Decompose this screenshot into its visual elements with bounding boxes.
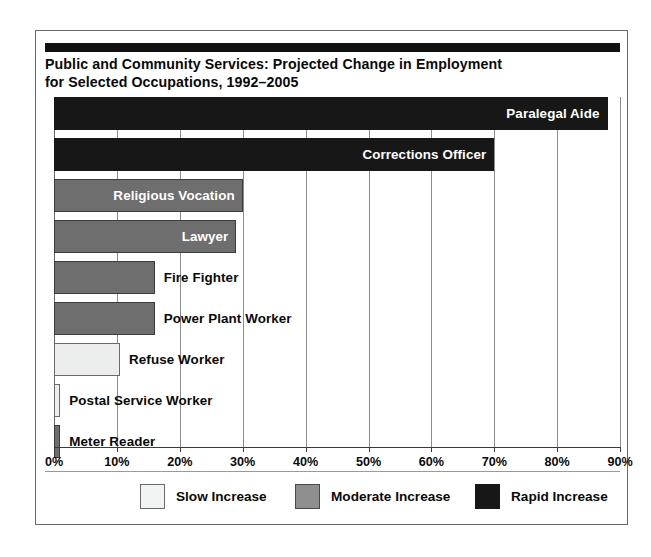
x-tick-label-20%: 20% <box>167 455 192 469</box>
bar-row: Refuse Worker <box>54 343 620 376</box>
chart-title: Public and Community Services: Projected… <box>45 55 620 91</box>
bar-label-paralegal-aide: Paralegal Aide <box>506 97 599 130</box>
legend-swatch-rapid <box>475 484 500 509</box>
bar-row: Postal Service Worker <box>54 384 620 417</box>
x-tick-label-50%: 50% <box>356 455 381 469</box>
bar-row: Fire Fighter <box>54 261 620 294</box>
chart-title-line-1: Public and Community Services: Projected… <box>45 55 620 73</box>
x-tick-label-0%: 0% <box>45 455 63 469</box>
bar-label-refuse-worker: Refuse Worker <box>129 343 225 376</box>
legend-item-slow[interactable]: Slow Increase <box>140 483 267 509</box>
tick-mark-10% <box>117 447 118 452</box>
bar-row: Power Plant Worker <box>54 302 620 335</box>
x-tick-label-90%: 90% <box>607 455 632 469</box>
title-top-rule <box>45 43 620 52</box>
x-axis-line <box>54 447 620 448</box>
tick-mark-50% <box>369 447 370 452</box>
gridline-90% <box>620 97 621 447</box>
chart-title-line-2: for Selected Occupations, 1992–2005 <box>45 73 620 91</box>
x-tick-label-40%: 40% <box>293 455 318 469</box>
bar-row: Corrections Officer <box>54 138 620 171</box>
bar-label-fire-fighter: Fire Fighter <box>164 261 239 294</box>
chart-figure: Public and Community Services: Projected… <box>35 30 628 525</box>
bar-row: Lawyer <box>54 220 620 253</box>
legend-item-rapid[interactable]: Rapid Increase <box>475 483 608 509</box>
x-tick-label-30%: 30% <box>230 455 255 469</box>
legend-label-slow: Slow Increase <box>176 489 267 504</box>
legend-top-rule <box>45 471 620 472</box>
bar-refuse-worker[interactable] <box>54 343 120 376</box>
plot-area: Paralegal AideCorrections OfficerReligio… <box>45 97 620 447</box>
tick-mark-30% <box>243 447 244 452</box>
bar-label-religious-vocation: Religious Vocation <box>113 179 234 212</box>
bar-power-plant-worker[interactable] <box>54 302 155 335</box>
bar-label-lawyer: Lawyer <box>182 220 229 253</box>
tick-mark-20% <box>180 447 181 452</box>
bar-meter-reader[interactable] <box>54 425 60 458</box>
tick-mark-0% <box>54 447 55 452</box>
bar-label-power-plant-worker: Power Plant Worker <box>164 302 292 335</box>
legend-label-moderate: Moderate Increase <box>331 489 450 504</box>
legend-swatch-slow <box>140 484 165 509</box>
legend-swatch-moderate <box>295 484 320 509</box>
bar-label-corrections-officer: Corrections Officer <box>362 138 486 171</box>
legend-item-moderate[interactable]: Moderate Increase <box>295 483 450 509</box>
x-tick-label-70%: 70% <box>482 455 507 469</box>
x-tick-label-80%: 80% <box>545 455 570 469</box>
bar-row: Religious Vocation <box>54 179 620 212</box>
tick-mark-60% <box>431 447 432 452</box>
bar-fire-fighter[interactable] <box>54 261 155 294</box>
bar-row: Meter Reader <box>54 425 620 458</box>
tick-mark-70% <box>494 447 495 452</box>
tick-mark-40% <box>306 447 307 452</box>
bar-postal-service-worker[interactable] <box>54 384 60 417</box>
legend-label-rapid: Rapid Increase <box>511 489 608 504</box>
bar-row: Paralegal Aide <box>54 97 620 130</box>
bar-label-postal-service-worker: Postal Service Worker <box>69 384 212 417</box>
bar-label-meter-reader: Meter Reader <box>69 425 155 458</box>
tick-mark-80% <box>557 447 558 452</box>
x-tick-label-10%: 10% <box>104 455 129 469</box>
x-tick-label-60%: 60% <box>419 455 444 469</box>
chart-legend: Slow IncreaseModerate IncreaseRapid Incr… <box>45 483 620 513</box>
tick-mark-90% <box>620 447 621 452</box>
